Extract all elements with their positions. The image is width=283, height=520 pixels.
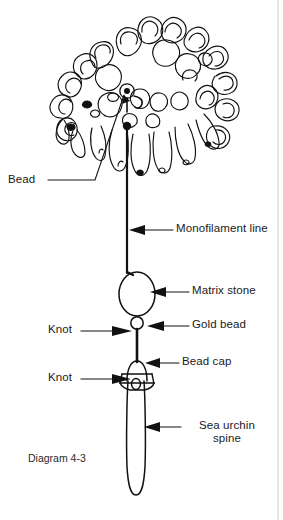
gold-bead [131,317,143,329]
knot-loop [132,379,141,390]
leader-matrix-stone [150,287,189,297]
leader-knot-upper [81,326,132,336]
leader-monofilament [129,225,173,235]
label-sea-urchin-spine: Sea urchin spine [184,419,270,444]
leader-bead-cap [145,358,179,368]
diagram-page: Bead Monofilament line Matrix stone Gold… [0,0,283,520]
label-matrix-stone: Matrix stone [192,284,256,297]
sea-urchin-spine [127,381,146,495]
matrix-stone [119,272,155,316]
label-sea-urchin-spine-line1: Sea urchin [184,419,270,432]
figure-caption: Diagram 4-3 [28,452,86,464]
label-sea-urchin-spine-line2: spine [184,432,270,445]
leader-gold-bead [147,321,189,331]
coral-cluster [50,17,239,176]
leader-sea-urchin-spine [144,422,181,432]
label-bead-cap: Bead cap [182,355,231,368]
label-knot-upper: Knot [48,323,72,336]
label-bead: Bead [8,173,35,186]
label-gold-bead: Gold bead [192,318,246,331]
label-knot-lower: Knot [48,371,72,384]
bead-ring [120,84,134,98]
label-monofilament-line: Monofilament line [176,222,268,235]
bead-cap [120,361,154,390]
